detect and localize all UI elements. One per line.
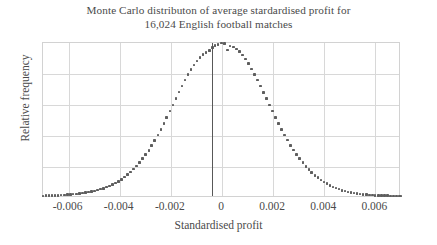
data-point bbox=[235, 48, 238, 51]
data-point bbox=[335, 187, 338, 190]
data-point bbox=[57, 194, 60, 197]
data-point bbox=[265, 97, 268, 100]
gridline-vertical bbox=[171, 43, 172, 196]
data-point bbox=[320, 179, 323, 182]
data-point bbox=[208, 49, 211, 52]
gridline-horizontal bbox=[43, 105, 399, 106]
data-point bbox=[329, 184, 332, 187]
x-axis-label: Standardised profit bbox=[0, 219, 437, 231]
data-point bbox=[274, 116, 277, 119]
data-point bbox=[356, 192, 359, 195]
data-point bbox=[60, 194, 63, 197]
data-point bbox=[347, 191, 350, 194]
data-point bbox=[223, 42, 226, 45]
gridline-vertical bbox=[69, 43, 70, 196]
data-point bbox=[244, 58, 247, 61]
data-point bbox=[181, 85, 184, 88]
data-point bbox=[129, 171, 132, 174]
data-point bbox=[332, 186, 335, 189]
data-point bbox=[344, 190, 347, 193]
data-point bbox=[45, 194, 48, 197]
data-point bbox=[238, 50, 241, 53]
data-point bbox=[42, 195, 45, 198]
data-point bbox=[123, 176, 126, 179]
data-point bbox=[184, 79, 187, 82]
data-point bbox=[314, 174, 317, 177]
data-point bbox=[310, 171, 313, 174]
data-point bbox=[175, 97, 178, 100]
data-point bbox=[262, 91, 265, 94]
y-axis-label: Relative frequency bbox=[19, 23, 31, 173]
gridline-horizontal bbox=[43, 136, 399, 137]
data-point bbox=[226, 49, 229, 52]
data-point bbox=[359, 193, 362, 196]
data-point bbox=[135, 165, 138, 168]
data-point bbox=[295, 153, 298, 156]
data-point bbox=[187, 73, 190, 76]
x-tick-label: 0 bbox=[218, 200, 224, 212]
data-point bbox=[153, 139, 156, 142]
data-point bbox=[341, 189, 344, 192]
data-point bbox=[120, 178, 123, 181]
data-point bbox=[241, 54, 244, 57]
data-point bbox=[302, 161, 305, 164]
data-point bbox=[190, 68, 193, 71]
data-point bbox=[132, 168, 135, 171]
x-tick-label: -0.006 bbox=[53, 200, 83, 212]
data-point bbox=[280, 128, 283, 131]
data-point bbox=[144, 153, 147, 156]
data-point bbox=[277, 122, 280, 125]
data-point bbox=[141, 157, 144, 160]
data-point bbox=[202, 53, 205, 56]
data-point bbox=[317, 176, 320, 179]
data-point bbox=[138, 161, 141, 164]
plot-area bbox=[42, 42, 400, 197]
data-point bbox=[150, 144, 153, 147]
gridline-vertical bbox=[324, 43, 325, 196]
x-tick-label: -0.002 bbox=[155, 200, 185, 212]
data-point bbox=[193, 64, 196, 67]
monte-carlo-distribution-chart: Monte Carlo distributon of average stard… bbox=[0, 0, 437, 245]
gridline-horizontal bbox=[43, 167, 399, 168]
data-point bbox=[160, 128, 163, 131]
reference-line-observed-profit bbox=[212, 43, 213, 196]
data-point bbox=[268, 104, 271, 107]
x-tick-label: 0.004 bbox=[310, 200, 336, 212]
x-tick-label: -0.004 bbox=[104, 200, 134, 212]
data-point bbox=[289, 144, 292, 147]
data-point bbox=[214, 44, 217, 47]
data-point bbox=[165, 116, 168, 119]
data-point bbox=[305, 165, 308, 168]
data-point bbox=[292, 149, 295, 152]
x-axis-tick-labels: -0.006-0.004-0.00200.0020.0040.006 bbox=[42, 200, 400, 216]
data-point bbox=[259, 85, 262, 88]
gridline-vertical bbox=[375, 43, 376, 196]
data-point bbox=[298, 157, 301, 160]
data-point bbox=[163, 122, 166, 125]
chart-title: Monte Carlo distributon of average stard… bbox=[0, 3, 437, 31]
x-tick-label: 0.002 bbox=[259, 200, 285, 212]
data-point bbox=[54, 194, 57, 197]
data-point bbox=[256, 79, 259, 82]
x-tick-label: 0.006 bbox=[361, 200, 387, 212]
data-point bbox=[247, 62, 250, 65]
data-point bbox=[148, 149, 151, 152]
data-point bbox=[286, 139, 289, 142]
data-point bbox=[199, 56, 202, 59]
chart-title-line-1: Monte Carlo distributon of average stard… bbox=[0, 3, 437, 17]
gridline-vertical bbox=[222, 43, 223, 196]
gridline-horizontal bbox=[43, 74, 399, 75]
chart-title-line-2: 16,024 English football matches bbox=[0, 17, 437, 31]
data-point bbox=[253, 73, 256, 76]
data-point bbox=[283, 134, 286, 137]
data-point bbox=[400, 195, 403, 198]
gridline-vertical bbox=[120, 43, 121, 196]
data-point bbox=[126, 173, 129, 176]
data-point bbox=[326, 182, 329, 185]
data-point bbox=[250, 68, 253, 71]
data-point bbox=[196, 60, 199, 63]
data-point bbox=[178, 91, 181, 94]
gridline-vertical bbox=[273, 43, 274, 196]
